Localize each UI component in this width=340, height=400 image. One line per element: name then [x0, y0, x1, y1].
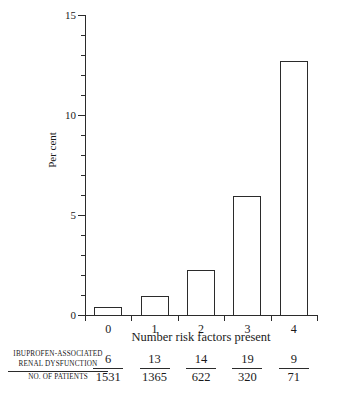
- y-axis-line: [85, 15, 86, 315]
- fraction-rule: [93, 368, 123, 369]
- y-axis-tick-label: 15: [65, 10, 76, 21]
- x-axis-tick: [131, 315, 132, 321]
- figure-bar-chart: Per cent 15105001234 Number risk factors…: [0, 0, 340, 400]
- y-axis-minor-tick: [81, 55, 85, 56]
- table-column: 19320: [226, 352, 268, 384]
- x-axis-title: Number risk factors present: [85, 331, 317, 344]
- y-axis-major-tick: [78, 315, 85, 316]
- x-axis-tick: [178, 315, 179, 321]
- fraction-rule: [186, 368, 216, 369]
- y-axis-title: Per cent: [47, 132, 58, 168]
- table-column: 61531: [87, 352, 129, 384]
- y-axis-minor-tick: [81, 275, 85, 276]
- y-axis-minor-tick: [81, 95, 85, 96]
- bar: [233, 196, 261, 315]
- y-axis-minor-tick: [81, 135, 85, 136]
- table-denominator: 71: [273, 370, 315, 384]
- table-denominator: 622: [180, 370, 222, 384]
- y-axis-minor-tick: [81, 235, 85, 236]
- table-denominator: 1365: [134, 370, 176, 384]
- y-axis-major-tick: [78, 15, 85, 16]
- x-axis-line: [85, 315, 317, 316]
- table-column: 971: [273, 352, 315, 384]
- plot-area: 15105001234: [85, 15, 317, 315]
- fraction-rule: [232, 368, 262, 369]
- bar: [94, 307, 122, 315]
- table-denominator: 1531: [87, 370, 129, 384]
- y-axis-minor-tick: [81, 75, 85, 76]
- data-table: IBUPROFEN-ASSOCIATED RENAL DYSFUNCTION N…: [0, 350, 340, 392]
- table-numerator: 6: [87, 352, 129, 366]
- y-axis-minor-tick: [81, 175, 85, 176]
- x-axis-tick: [85, 315, 86, 321]
- y-axis-minor-tick: [81, 35, 85, 36]
- y-axis-minor-tick: [81, 155, 85, 156]
- x-axis-tick: [224, 315, 225, 321]
- bar: [187, 270, 215, 315]
- y-axis-tick-label: 0: [71, 310, 77, 321]
- bar: [141, 296, 169, 315]
- fraction-rule: [279, 368, 309, 369]
- bar: [280, 61, 308, 315]
- y-axis-minor-tick: [81, 255, 85, 256]
- table-numerator: 14: [180, 352, 222, 366]
- table-numerator: 9: [273, 352, 315, 366]
- y-axis-minor-tick: [81, 195, 85, 196]
- x-axis-tick: [271, 315, 272, 321]
- y-axis-tick-label: 10: [65, 110, 76, 121]
- y-axis-major-tick: [78, 115, 85, 116]
- table-denominator: 320: [226, 370, 268, 384]
- y-axis-minor-tick: [81, 295, 85, 296]
- table-numerator: 13: [134, 352, 176, 366]
- table-column: 14622: [180, 352, 222, 384]
- x-axis-tick: [317, 315, 318, 321]
- y-axis-tick-label: 5: [71, 210, 77, 221]
- table-column: 131365: [134, 352, 176, 384]
- y-axis-major-tick: [78, 215, 85, 216]
- table-numerator: 19: [226, 352, 268, 366]
- fraction-rule: [140, 368, 170, 369]
